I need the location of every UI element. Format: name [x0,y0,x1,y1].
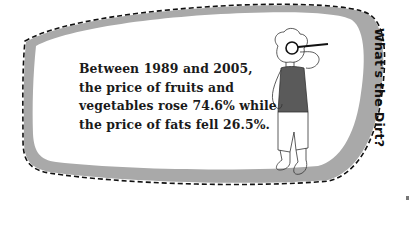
fact-line-3: vegetables rose 74.6% while [79,97,289,116]
magnifier-icon [286,42,298,54]
fact-line-2: the price of fruits and [79,79,289,98]
corner-mark [406,196,409,200]
fact-line-4: the price of fats fell 26.5%. [79,116,289,135]
fact-line-1: Between 1989 and 2005, [79,60,289,79]
callout-title: What's the Dirt? [370,28,388,148]
fact-text: Between 1989 and 2005, the price of frui… [79,60,289,134]
